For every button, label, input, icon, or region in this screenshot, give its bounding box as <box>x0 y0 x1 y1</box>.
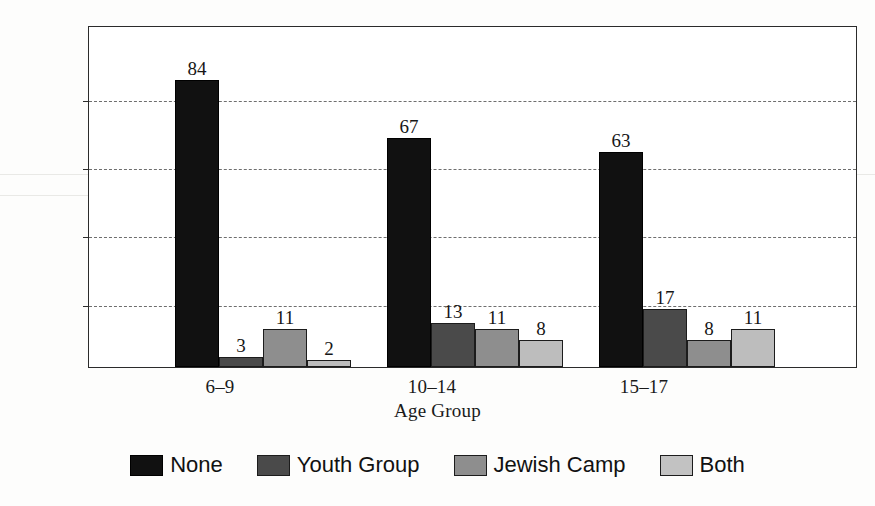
chart-legend: None Youth Group Jewish Camp Both <box>0 454 875 476</box>
y-tick-mark-40 <box>83 237 89 238</box>
bar-label-jewish-camp-10-14: 11 <box>475 308 519 327</box>
x-tick-label-15-17: 15–17 <box>576 377 712 396</box>
legend-swatch-icon-jewish-camp <box>454 455 487 476</box>
legend-label-jewish-camp: Jewish Camp <box>494 454 626 476</box>
bar-label-none-15-17: 63 <box>599 131 643 150</box>
legend-item-youth-group[interactable]: Youth Group <box>257 454 420 476</box>
bar-label-jewish-camp-15-17: 8 <box>687 319 731 338</box>
bar-label-youth-6-9: 3 <box>219 336 263 355</box>
legend-item-none[interactable]: None <box>130 454 223 476</box>
bar-label-none-6-9: 84 <box>175 59 219 78</box>
bar-label-jewish-camp-6-9: 11 <box>263 308 307 327</box>
chart-figure: 100% 80 60 40 20 0 84 3 11 2 <box>0 0 875 506</box>
bar-none-6-9[interactable] <box>175 80 219 367</box>
bar-none-10-14[interactable] <box>387 138 431 367</box>
bar-youth-15-17[interactable] <box>643 309 687 367</box>
bar-jewish-camp-6-9[interactable] <box>263 329 307 367</box>
bar-both-6-9[interactable] <box>307 360 351 367</box>
bar-label-both-6-9: 2 <box>307 339 351 358</box>
bar-label-both-15-17: 11 <box>731 308 775 327</box>
bar-label-both-10-14: 8 <box>519 319 563 338</box>
legend-item-both[interactable]: Both <box>660 454 745 476</box>
y-tick-mark-80 <box>83 101 89 102</box>
bar-label-none-10-14: 67 <box>387 117 431 136</box>
plot-area: 84 3 11 2 67 13 11 8 63 17 8 11 <box>88 26 857 368</box>
x-tick-label-10-14: 10–14 <box>364 377 500 396</box>
bar-both-15-17[interactable] <box>731 329 775 367</box>
bar-youth-6-9[interactable] <box>219 357 263 367</box>
bar-jewish-camp-10-14[interactable] <box>475 329 519 367</box>
legend-label-none: None <box>170 454 223 476</box>
bar-youth-10-14[interactable] <box>431 323 475 367</box>
legend-swatch-icon-youth-group <box>257 455 290 476</box>
legend-swatch-icon-none <box>130 455 163 476</box>
legend-item-jewish-camp[interactable]: Jewish Camp <box>454 454 626 476</box>
x-tick-label-6-9: 6–9 <box>152 377 288 396</box>
bar-label-youth-10-14: 13 <box>431 302 475 321</box>
legend-label-both: Both <box>700 454 745 476</box>
bar-both-10-14[interactable] <box>519 340 563 367</box>
bar-jewish-camp-15-17[interactable] <box>687 340 731 367</box>
legend-label-youth-group: Youth Group <box>297 454 420 476</box>
y-tick-mark-60 <box>83 169 89 170</box>
bar-none-15-17[interactable] <box>599 152 643 367</box>
y-tick-mark-20 <box>83 306 89 307</box>
bar-label-youth-15-17: 17 <box>643 288 687 307</box>
legend-swatch-icon-both <box>660 455 693 476</box>
x-axis-title: Age Group <box>0 401 875 420</box>
